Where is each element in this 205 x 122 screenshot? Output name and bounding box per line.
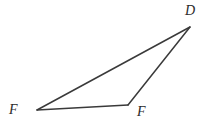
geometry-figure-canvas: D F F [0, 0, 205, 122]
diagram-background [0, 0, 205, 122]
vertex-label-f-left: F [9, 103, 18, 117]
triangle-diagram [0, 0, 205, 122]
vertex-label-d: D [185, 4, 195, 18]
vertex-label-f-right: F [137, 105, 146, 119]
